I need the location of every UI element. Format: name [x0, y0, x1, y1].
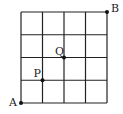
point-b-label: B: [111, 2, 119, 15]
grid-diagram: APQB: [0, 0, 123, 114]
point-q-label: Q: [55, 45, 64, 58]
point-p-label: P: [34, 67, 42, 80]
point-p-dot: [41, 78, 45, 82]
point-a-dot: [19, 101, 23, 105]
point-b-dot: [105, 10, 109, 14]
point-a-label: A: [8, 96, 18, 109]
